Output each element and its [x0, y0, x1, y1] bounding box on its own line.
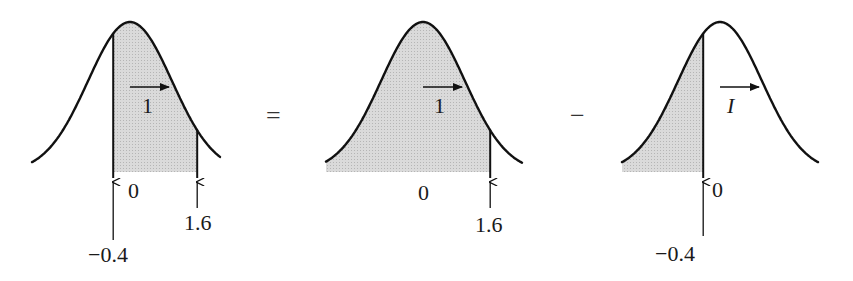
panel3-lower-label: −0.4: [655, 241, 695, 266]
panel2-upper-label: 1.6: [475, 212, 503, 237]
panel-between: [32, 22, 220, 240]
panel1-lower-label: −0.4: [88, 242, 128, 267]
panel2-zero-label: 0: [418, 180, 429, 205]
minus-operator: −: [570, 101, 585, 130]
panel1-unit-label: 1: [142, 93, 153, 118]
panel3-unit-label: I: [726, 93, 736, 118]
panel1-upper-label: 1.6: [184, 210, 212, 235]
panel-left-of-lower: [622, 22, 818, 236]
panel1-zero-label: 0: [128, 178, 139, 203]
normal-curve-diagram: 0 1.6 −0.4 1 = 0 1.6 1 − 0 −0.4 I: [0, 0, 853, 281]
panel2-unit-label: 1: [434, 93, 445, 118]
equals-operator: =: [266, 101, 281, 130]
panel3-zero-label: 0: [712, 177, 723, 202]
shaded-area: [326, 22, 490, 172]
